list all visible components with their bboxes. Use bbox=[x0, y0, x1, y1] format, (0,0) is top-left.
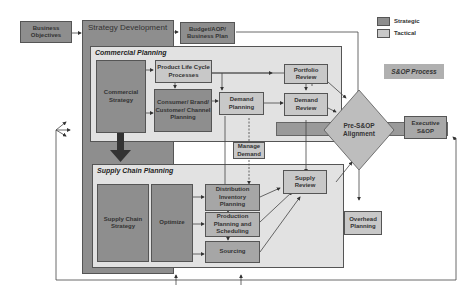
manage-demand-label: Manage Demand bbox=[234, 143, 264, 158]
consumer-brand-planning[interactable]: Consumer/ Brand/ Customer/ Channel Plann… bbox=[154, 89, 212, 132]
product-life-cycle[interactable]: Product Life Cycle Processes bbox=[155, 60, 212, 83]
optimize[interactable]: Optimize bbox=[151, 184, 193, 262]
supply-chain-strategy[interactable]: Supply Chain Strategy bbox=[97, 184, 149, 262]
commercial-strategy-label: Commercial Strategy bbox=[97, 89, 145, 104]
portfolio-review-label: Portfolio Review bbox=[285, 67, 327, 82]
consumer-brand-label: Consumer/ Brand/ Customer/ Channel Plann… bbox=[155, 99, 211, 122]
sop-process-label: S&OP Process bbox=[384, 64, 444, 79]
budget-plan[interactable]: Budget/AOP/ Business Plan bbox=[180, 22, 235, 44]
optimize-label: Optimize bbox=[159, 219, 184, 227]
legend-label-strategic: Strategic bbox=[394, 18, 420, 24]
budget-plan-label: Budget/AOP/ Business Plan bbox=[181, 26, 234, 41]
portfolio-review[interactable]: Portfolio Review bbox=[284, 64, 328, 84]
pre-sop-label: Pre-S&OP Alignment bbox=[334, 122, 384, 139]
pre-sop-alignment[interactable]: Pre-S&OP Alignment bbox=[334, 112, 384, 148]
manage-demand[interactable]: Manage Demand bbox=[233, 142, 265, 159]
executive-sop[interactable]: Executive S&OP bbox=[404, 116, 447, 139]
production-planning[interactable]: Production Planning and Scheduling bbox=[205, 212, 260, 237]
legend-swatch-tactical bbox=[377, 29, 390, 38]
sourcing-label: Sourcing bbox=[219, 248, 245, 256]
demand-planning-label: Demand Planning bbox=[220, 96, 263, 111]
commercial-planning-title: Commercial Planning bbox=[95, 49, 167, 56]
business-objectives-label: Business Objectives bbox=[21, 25, 71, 40]
commercial-strategy[interactable]: Commercial Strategy bbox=[96, 60, 146, 133]
supply-chain-planning-title: Supply Chain Planning bbox=[97, 167, 173, 174]
strategy-development-label: Strategy Development bbox=[88, 23, 168, 33]
legend-swatch-strategic bbox=[377, 17, 390, 26]
distribution-inventory-label: Distribution Inventory Planning bbox=[206, 186, 259, 209]
distribution-inventory-planning[interactable]: Distribution Inventory Planning bbox=[205, 184, 260, 211]
sourcing[interactable]: Sourcing bbox=[205, 241, 260, 263]
overhead-planning[interactable]: Overhead Planning bbox=[344, 211, 382, 235]
demand-review-label: Demand Review bbox=[285, 97, 327, 112]
supply-review[interactable]: Supply Review bbox=[283, 170, 327, 194]
supply-review-label: Supply Review bbox=[284, 175, 326, 190]
business-objectives[interactable]: Business Objectives bbox=[20, 21, 72, 43]
sop-process-text: S&OP Process bbox=[391, 68, 436, 75]
executive-sop-label: Executive S&OP bbox=[405, 120, 446, 135]
supply-chain-strategy-label: Supply Chain Strategy bbox=[98, 216, 148, 231]
demand-planning[interactable]: Demand Planning bbox=[219, 92, 264, 115]
demand-review[interactable]: Demand Review bbox=[284, 93, 328, 116]
production-planning-label: Production Planning and Scheduling bbox=[206, 213, 259, 236]
overhead-planning-label: Overhead Planning bbox=[345, 216, 381, 231]
product-life-cycle-label: Product Life Cycle Processes bbox=[156, 64, 211, 79]
legend-label-tactical: Tactical bbox=[394, 30, 416, 36]
